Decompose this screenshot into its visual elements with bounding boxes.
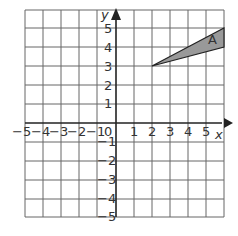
svg-text:1: 1 xyxy=(104,96,112,111)
svg-text:−2: −2 xyxy=(67,124,86,139)
svg-text:3: 3 xyxy=(166,124,174,139)
coordinate-grid: A x y −5 −4 −3 −2 −1 0 1 2 3 4 5 5 4 3 2… xyxy=(0,0,238,236)
svg-text:3: 3 xyxy=(104,59,112,74)
svg-text:4: 4 xyxy=(184,124,192,139)
y-axis-label: y xyxy=(100,7,109,22)
svg-text:−3: −3 xyxy=(49,124,68,139)
svg-text:−4: −4 xyxy=(97,191,116,206)
svg-text:4: 4 xyxy=(104,40,112,55)
svg-text:−3: −3 xyxy=(97,172,116,187)
svg-text:−5: −5 xyxy=(97,209,116,224)
svg-text:2: 2 xyxy=(148,124,156,139)
svg-text:5: 5 xyxy=(202,124,210,139)
svg-text:2: 2 xyxy=(104,78,112,93)
svg-text:−2: −2 xyxy=(97,153,116,168)
svg-text:5: 5 xyxy=(104,21,112,36)
svg-text:−1: −1 xyxy=(97,134,116,149)
svg-text:−4: −4 xyxy=(31,124,50,139)
x-axis-arrow-icon xyxy=(224,118,233,128)
shape-label-a: A xyxy=(208,32,217,47)
svg-text:1: 1 xyxy=(130,124,138,139)
svg-text:−5: −5 xyxy=(12,124,31,139)
grid-lines xyxy=(25,10,224,217)
x-axis-label: x xyxy=(214,127,223,142)
